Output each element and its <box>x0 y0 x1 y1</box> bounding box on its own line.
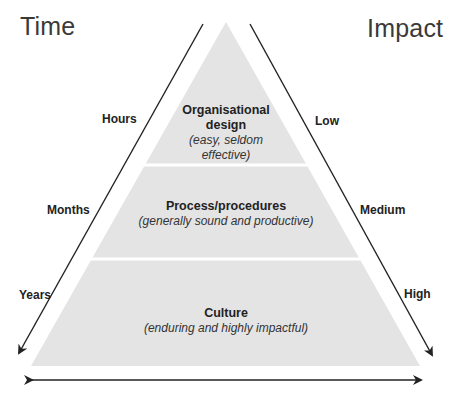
layer-process-procedures: Process/procedures (generally sound and … <box>106 199 346 229</box>
time-label-years: Years <box>19 288 51 302</box>
layer-subtitle: effective) <box>166 148 286 163</box>
layer-title: Culture <box>106 306 346 321</box>
impact-label-high: High <box>404 287 431 301</box>
pyramid-diagram: Time Impact Hours Months Years Low Mediu… <box>0 0 452 400</box>
time-title: Time <box>20 12 75 41</box>
impact-label-low: Low <box>315 114 339 128</box>
layer-culture: Culture (enduring and highly impactful) <box>106 306 346 336</box>
impact-title: Impact <box>367 14 443 43</box>
layer-organisational-design: Organisational design (easy, seldom effe… <box>166 103 286 163</box>
layer-title: Process/procedures <box>106 199 346 214</box>
layer-subtitle: (easy, seldom <box>166 133 286 148</box>
time-label-hours: Hours <box>102 112 137 126</box>
time-label-months: Months <box>47 203 90 217</box>
impact-label-medium: Medium <box>360 203 405 217</box>
layer-title: Organisational <box>166 103 286 118</box>
layer-subtitle: (enduring and highly impactful) <box>106 321 346 336</box>
layer-title: design <box>166 118 286 133</box>
layer-subtitle: (generally sound and productive) <box>106 214 346 229</box>
